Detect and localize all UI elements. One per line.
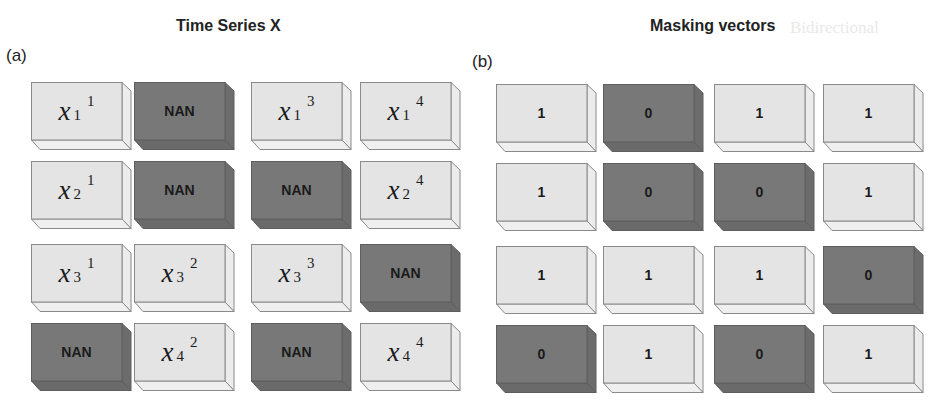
- time-index: 1: [87, 172, 95, 189]
- variable-index: 4: [402, 348, 410, 365]
- panel-a-label: (a): [6, 46, 27, 66]
- mask-value: 1: [496, 246, 587, 304]
- time-index: 2: [190, 255, 198, 272]
- time-series-cell-r3-c4: NAN: [360, 244, 461, 312]
- mask-value: 0: [603, 163, 694, 221]
- time-index: 3: [307, 255, 315, 272]
- variable-index: 4: [176, 348, 184, 365]
- panel-a-title: Time Series X: [176, 17, 281, 35]
- mask-cell-r3-c2: 1: [603, 246, 704, 314]
- mask-cell-r3-c3: 1: [714, 246, 815, 314]
- missing-value-label: NAN: [134, 82, 225, 140]
- variable-index: 1: [293, 107, 301, 124]
- missing-value-label: NAN: [134, 161, 225, 219]
- variable-symbol: x: [162, 337, 174, 368]
- mask-cell-r3-c4: 0: [823, 246, 924, 314]
- time-series-cell-r3-c3: x33: [251, 244, 352, 312]
- variable-index: 3: [176, 269, 184, 286]
- mask-value: 0: [714, 325, 805, 383]
- mask-cell-r4-c3: 0: [714, 325, 815, 393]
- mask-value: 1: [823, 84, 914, 142]
- mask-cell-r2-c2: 0: [603, 163, 704, 231]
- time-index: 2: [190, 334, 198, 351]
- mask-cell-r2-c4: 1: [823, 163, 924, 231]
- time-series-cell-r1-c4: x14: [360, 82, 461, 150]
- mask-value: 0: [823, 246, 914, 304]
- variable-symbol: x: [59, 258, 71, 289]
- observation-value: x44: [360, 323, 451, 381]
- mask-value: 1: [823, 163, 914, 221]
- mask-cell-r1-c4: 1: [823, 84, 924, 152]
- observation-value: x32: [134, 244, 225, 302]
- time-series-cell-r4-c3: NAN: [251, 323, 352, 391]
- variable-symbol: x: [162, 258, 174, 289]
- mask-value: 0: [603, 84, 694, 142]
- variable-symbol: x: [59, 175, 71, 206]
- time-series-cell-r2-c1: x21: [31, 161, 132, 229]
- variable-symbol: x: [388, 96, 400, 127]
- time-series-cell-r2-c3: NAN: [251, 161, 352, 229]
- variable-index: 1: [402, 107, 410, 124]
- mask-cell-r4-c4: 1: [823, 325, 924, 393]
- variable-symbol: x: [388, 337, 400, 368]
- mask-cell-r1-c2: 0: [603, 84, 704, 152]
- time-series-cell-r4-c4: x44: [360, 323, 461, 391]
- variable-symbol: x: [279, 96, 291, 127]
- missing-value-label: NAN: [251, 161, 342, 219]
- variable-symbol: x: [59, 96, 71, 127]
- observation-value: x13: [251, 82, 342, 140]
- time-series-cell-r2-c4: x24: [360, 161, 461, 229]
- missing-value-label: NAN: [251, 323, 342, 381]
- time-index: 1: [87, 255, 95, 272]
- mask-cell-r1-c1: 1: [496, 84, 597, 152]
- missing-value-label: NAN: [31, 323, 122, 381]
- observation-value: x42: [134, 323, 225, 381]
- time-series-cell-r3-c2: x32: [134, 244, 235, 312]
- mask-value: 1: [714, 246, 805, 304]
- time-series-cell-r1-c3: x13: [251, 82, 352, 150]
- variable-index: 1: [73, 107, 81, 124]
- observation-value: x21: [31, 161, 122, 219]
- mask-value: 1: [714, 84, 805, 142]
- observation-value: x11: [31, 82, 122, 140]
- variable-index: 3: [293, 269, 301, 286]
- variable-index: 3: [73, 269, 81, 286]
- time-series-cell-r1-c1: x11: [31, 82, 132, 150]
- missing-value-label: NAN: [360, 244, 451, 302]
- variable-symbol: x: [388, 175, 400, 206]
- time-index: 1: [87, 93, 95, 110]
- observation-value: x14: [360, 82, 451, 140]
- mask-value: 1: [496, 84, 587, 142]
- time-series-cell-r4-c1: NAN: [31, 323, 132, 391]
- mask-cell-r2-c1: 1: [496, 163, 597, 231]
- time-series-cell-r4-c2: x42: [134, 323, 235, 391]
- mask-value: 1: [823, 325, 914, 383]
- time-index: 4: [416, 172, 424, 189]
- mask-value: 1: [496, 163, 587, 221]
- time-series-cell-r2-c2: NAN: [134, 161, 235, 229]
- panel-b-label: (b): [472, 52, 493, 72]
- mask-value: 1: [603, 325, 694, 383]
- variable-index: 2: [73, 186, 81, 203]
- mask-cell-r1-c3: 1: [714, 84, 815, 152]
- observation-value: x24: [360, 161, 451, 219]
- time-index: 4: [416, 93, 424, 110]
- mask-cell-r4-c1: 0: [496, 325, 597, 393]
- variable-symbol: x: [279, 258, 291, 289]
- time-index: 3: [307, 93, 315, 110]
- time-series-cell-r3-c1: x31: [31, 244, 132, 312]
- mask-value: 1: [603, 246, 694, 304]
- mask-cell-r2-c3: 0: [714, 163, 815, 231]
- mask-value: 0: [714, 163, 805, 221]
- background-ghost-text: Bidirectional: [790, 18, 879, 38]
- variable-index: 2: [402, 186, 410, 203]
- mask-cell-r4-c2: 1: [603, 325, 704, 393]
- time-series-cell-r1-c2: NAN: [134, 82, 235, 150]
- time-index: 4: [416, 334, 424, 351]
- panel-b-title: Masking vectors: [650, 17, 775, 35]
- mask-value: 0: [496, 325, 587, 383]
- observation-value: x31: [31, 244, 122, 302]
- mask-cell-r3-c1: 1: [496, 246, 597, 314]
- observation-value: x33: [251, 244, 342, 302]
